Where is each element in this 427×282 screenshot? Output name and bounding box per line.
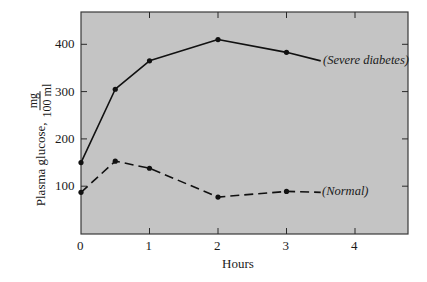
x-tick-label: 0 <box>77 238 84 254</box>
y-tick-label: 100 <box>55 178 75 194</box>
y-axis-unit-numerator: mg <box>27 91 41 110</box>
data-point <box>113 87 118 92</box>
glucose-chart: Plasma glucose, mg 100 ml Hours 10020030… <box>0 0 427 282</box>
data-point <box>78 160 83 165</box>
x-tick-label: 2 <box>214 238 221 254</box>
data-point <box>147 166 152 171</box>
data-point <box>215 194 220 199</box>
data-point <box>113 159 118 164</box>
y-tick-label: 400 <box>55 36 75 52</box>
y-axis-label-text: Plasma glucose, <box>32 122 48 206</box>
x-tick-label: 4 <box>351 238 358 254</box>
y-axis-unit-denominator: 100 ml <box>41 84 54 118</box>
x-tick-label: 3 <box>283 238 290 254</box>
y-tick-label: 300 <box>55 84 75 100</box>
x-tick-label: 1 <box>146 238 153 254</box>
x-axis-label: Hours <box>222 256 254 272</box>
series-label-severe-diabetes: (Severe diabetes) <box>323 53 409 68</box>
y-axis-unit: mg 100 ml <box>27 84 54 118</box>
data-point <box>284 189 289 194</box>
data-point <box>147 58 152 63</box>
data-point <box>284 50 289 55</box>
data-point <box>215 37 220 42</box>
y-tick-label: 200 <box>55 131 75 147</box>
data-point <box>78 190 83 195</box>
series-label-normal: (Normal) <box>322 184 369 199</box>
